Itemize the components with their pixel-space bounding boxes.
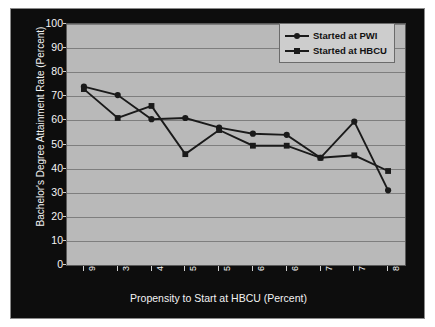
data-point <box>250 143 256 149</box>
legend-marker-square-icon <box>285 45 309 56</box>
data-point <box>149 103 155 109</box>
x-tick-mark <box>353 266 354 271</box>
legend-label-pwi: Started at PWI <box>313 30 377 41</box>
y-tick-label: 20 <box>23 216 63 217</box>
data-point <box>182 151 188 157</box>
y-tick-label: 30 <box>23 192 63 193</box>
data-point <box>385 168 391 174</box>
data-point <box>216 127 222 133</box>
y-tick-label: 10 <box>23 240 63 241</box>
data-point <box>284 143 290 149</box>
data-point <box>148 116 154 122</box>
y-tick-label: 0 <box>23 264 63 265</box>
data-point <box>318 155 324 161</box>
data-point <box>115 115 121 121</box>
x-tick-mark <box>151 266 152 271</box>
y-tick-label: 80 <box>23 71 63 72</box>
x-tick-mark <box>320 266 321 271</box>
x-tick-mark <box>252 266 253 271</box>
x-tick-mark <box>117 266 118 271</box>
x-tick-mark <box>387 266 388 271</box>
x-tick-mark <box>218 266 219 271</box>
y-axis-title: Bachelor's Degree Attainment Rate (Perce… <box>35 2 46 252</box>
x-tick-mark <box>83 266 84 271</box>
legend-item-pwi[interactable]: Started at PWI <box>285 28 387 43</box>
data-point <box>284 132 290 138</box>
y-tick-label: 100 <box>23 23 63 24</box>
x-tick-mark <box>286 266 287 271</box>
data-point <box>182 115 188 121</box>
legend-item-hbcu[interactable]: Started at HBCU <box>285 43 387 58</box>
legend-label-hbcu: Started at HBCU <box>313 45 387 56</box>
data-point <box>81 86 87 92</box>
data-point <box>250 131 256 137</box>
y-tick-label: 70 <box>23 95 63 96</box>
y-tick-label: 50 <box>23 144 63 145</box>
y-tick-label: 90 <box>23 47 63 48</box>
data-point <box>115 92 121 98</box>
data-point <box>351 119 357 125</box>
x-tick-mark <box>184 266 185 271</box>
y-tick-label: 40 <box>23 168 63 169</box>
legend-marker-circle-icon <box>285 30 309 41</box>
data-point <box>385 187 391 193</box>
chart-frame: Bachelor's Degree Attainment Rate (Perce… <box>10 8 425 319</box>
y-tick-label: 60 <box>23 119 63 120</box>
data-point <box>351 152 357 158</box>
x-axis-title: Propensity to Start at HBCU (Percent) <box>11 292 426 304</box>
legend: Started at PWI Started at HBCU <box>279 23 395 63</box>
